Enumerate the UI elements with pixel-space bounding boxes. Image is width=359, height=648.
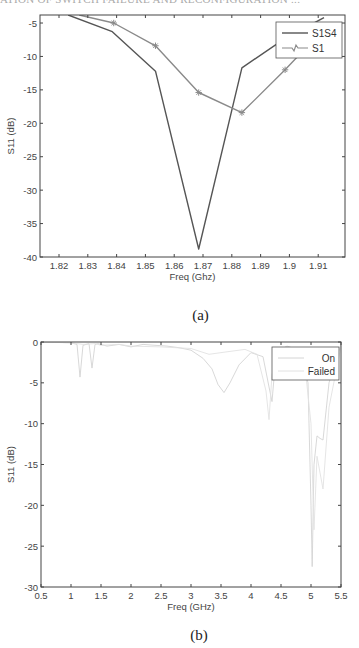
legend-label: S1S4 (312, 28, 337, 39)
y-axis-label: S11 (dB) (5, 118, 16, 155)
y-tick-label: -25 (24, 541, 38, 552)
y-tick-label: -30 (24, 582, 38, 593)
x-tick-label: 3.5 (214, 590, 227, 601)
x-tick-label: 1.82 (50, 260, 69, 271)
y-tick-label: -35 (23, 218, 37, 229)
chart-a: 1.821.831.841.851.861.871.881.891.91.91F… (5, 15, 345, 324)
star-marker-icon (152, 43, 158, 49)
x-tick-label: 1.85 (136, 260, 155, 271)
x-tick-label: 1.89 (251, 260, 270, 271)
y-tick-label: -20 (24, 500, 38, 511)
x-tick-label: 1 (68, 590, 73, 601)
x-tick-label: 5.5 (334, 590, 347, 601)
y-tick-label: -15 (24, 459, 38, 470)
x-tick-label: 1.91 (309, 260, 328, 271)
x-tick-label: 3 (188, 590, 193, 601)
y-tick-label: -20 (23, 118, 37, 129)
x-tick-label: 4 (248, 590, 253, 601)
y-axis-label: S11 (dB) (5, 446, 16, 483)
y-tick-label: -40 (23, 252, 37, 263)
series-line-s1 (79, 15, 307, 113)
x-tick-label: 1.86 (165, 260, 184, 271)
legend-label: On (322, 353, 335, 364)
x-tick-label: 1.9 (283, 260, 296, 271)
legend: OnFailed (272, 347, 339, 380)
y-tick-label: -10 (23, 51, 37, 62)
star-marker-icon (195, 89, 201, 95)
y-tick-label: -10 (24, 418, 38, 429)
legend-label: Failed (308, 366, 335, 377)
x-tick-label: 4.5 (274, 590, 287, 601)
x-tick-label: 1.88 (223, 260, 242, 271)
x-tick-label: 5 (308, 590, 313, 601)
y-tick-label: -15 (23, 84, 37, 95)
x-tick-label: 2.5 (154, 590, 167, 601)
x-axis-label: Freq (GHz) (167, 601, 215, 612)
star-marker-icon (111, 20, 117, 26)
chart-b: 0.511.522.533.544.555.5Freq (GHz)0-5-10-… (5, 337, 348, 645)
x-tick-label: 1.87 (194, 260, 213, 271)
x-tick-label: 1.5 (94, 590, 107, 601)
y-tick-label: 0 (33, 337, 38, 348)
y-tick-label: -5 (29, 18, 37, 29)
y-tick-label: -5 (30, 377, 38, 388)
x-axis: 0.511.522.533.544.555.5 (34, 342, 347, 601)
y-tick-label: -25 (23, 151, 37, 162)
x-tick-label: 2 (128, 590, 133, 601)
x-tick-label: 1.83 (79, 260, 98, 271)
figure-caption: (b) (190, 627, 208, 644)
legend: S1S4S1 (276, 22, 342, 58)
figure-caption: (a) (192, 307, 209, 324)
x-tick-label: 1.84 (107, 260, 126, 271)
legend-label: S1 (312, 43, 325, 54)
y-tick-label: -30 (23, 185, 37, 196)
figure-canvas: 1.821.831.841.851.861.871.881.891.91.91F… (0, 0, 359, 648)
x-axis-label: Freq (Ghz) (170, 271, 216, 282)
